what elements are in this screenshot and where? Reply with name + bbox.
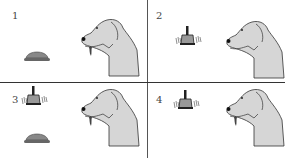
panel-3: 3	[0, 84, 142, 158]
panel-4: 4	[148, 84, 285, 158]
panel-number: 2	[156, 10, 162, 21]
panel-number: 1	[12, 10, 18, 21]
panel-2: 2	[148, 0, 285, 76]
panel-number: 4	[156, 94, 162, 105]
panel-number: 3	[12, 94, 18, 105]
bell-icon	[22, 86, 48, 106]
dog-salivating-icon	[81, 16, 141, 76]
bell-icon	[174, 90, 200, 110]
panel-1: 1	[0, 0, 142, 76]
food-bowl-icon	[24, 48, 50, 62]
bell-icon	[176, 26, 202, 46]
dog-icon	[226, 18, 285, 78]
dog-salivating-icon	[226, 86, 285, 146]
food-bowl-icon	[24, 130, 50, 144]
horizontal-divider	[0, 82, 285, 83]
dog-salivating-icon	[81, 86, 141, 146]
